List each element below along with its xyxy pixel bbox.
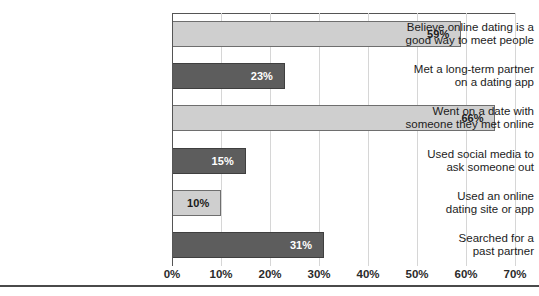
x-tick-label: 0%: [164, 268, 181, 280]
plot-area: 59%23%66%15%10%31%: [172, 13, 515, 266]
category-label: Met a long-term partneron a dating app: [371, 63, 539, 89]
bar-value-label: 31%: [290, 239, 312, 251]
category-label-line: Met a long-term partner: [371, 63, 534, 76]
x-tick-label: 60%: [454, 268, 477, 280]
category-label-line: Went on a date with: [371, 105, 534, 118]
category-label-line: Used an online: [371, 190, 534, 203]
x-tick-label: 30%: [307, 268, 330, 280]
category-label-line: Searched for a: [371, 232, 534, 245]
category-label: Searched for apast partner: [371, 232, 539, 258]
footer-rule: [0, 285, 539, 287]
gridline-50%: [417, 13, 418, 266]
category-label-line: past partner: [371, 245, 534, 258]
gridline-40%: [368, 13, 369, 266]
bar: [172, 148, 246, 174]
gridline-10%: [221, 13, 222, 266]
gridline-60%: [466, 13, 467, 266]
gridline-30%: [319, 13, 320, 266]
x-tick-label: 70%: [503, 268, 526, 280]
category-label: Went on a date withsomeone they met onli…: [371, 105, 539, 131]
category-label-line: Used social media to: [371, 148, 534, 161]
category-label: Used social media toask someone out: [371, 148, 539, 174]
category-label-line: someone they met online: [371, 118, 534, 131]
x-tick-label: 10%: [209, 268, 232, 280]
bar-chart: 59%23%66%15%10%31% Believe online dating…: [0, 0, 539, 296]
category-label-line: good way to meet people: [371, 34, 534, 47]
category-label-line: ask someone out: [371, 161, 534, 174]
x-tick-label: 40%: [356, 268, 379, 280]
bar-value-label: 23%: [251, 70, 273, 82]
x-tick-label: 20%: [258, 268, 281, 280]
bar-value-label: 15%: [212, 155, 234, 167]
x-tick-label: 50%: [405, 268, 428, 280]
gridline-70%: [515, 13, 516, 266]
category-label-line: on a dating app: [371, 76, 534, 89]
category-label-line: Believe online dating is a: [371, 21, 534, 34]
bar-value-label: 10%: [187, 197, 209, 209]
category-label: Used an onlinedating site or app: [371, 190, 539, 216]
category-label-line: dating site or app: [371, 203, 534, 216]
y-axis-line: [172, 13, 173, 266]
category-label: Believe online dating is agood way to me…: [371, 21, 539, 47]
gridline-20%: [270, 13, 271, 266]
